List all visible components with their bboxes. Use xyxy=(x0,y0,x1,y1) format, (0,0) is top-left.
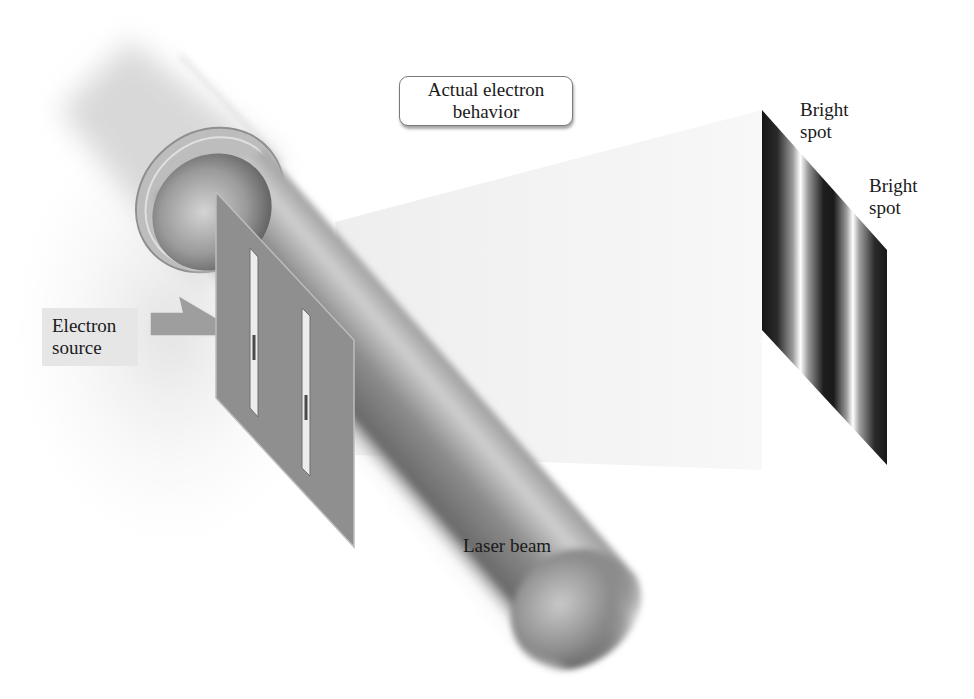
bright-spot-label-2: Bright spot xyxy=(869,175,918,219)
electron-source-line-1: Electron xyxy=(52,315,116,337)
electron-source-label: Electron source xyxy=(42,308,138,366)
diagram-canvas: Actual electron behavior Electron source… xyxy=(0,0,974,699)
callout-line-1: Actual electron xyxy=(400,79,572,101)
slit-1 xyxy=(250,248,258,417)
bright-spot-2-line-1: Bright xyxy=(869,175,918,197)
bright-spot-1-line-2: spot xyxy=(800,121,849,143)
slit-2 xyxy=(302,308,310,476)
callout-line-2: behavior xyxy=(400,101,572,123)
electron-source-line-2: source xyxy=(52,337,116,359)
bright-spot-2-line-2: spot xyxy=(869,197,918,219)
laser-beam-label: Laser beam xyxy=(463,535,551,557)
bright-spot-label-1: Bright spot xyxy=(800,99,849,143)
actual-electron-behavior-callout: Actual electron behavior xyxy=(399,76,573,126)
detection-screen-interference-pattern xyxy=(762,110,887,465)
bright-spot-1-line-1: Bright xyxy=(800,99,849,121)
